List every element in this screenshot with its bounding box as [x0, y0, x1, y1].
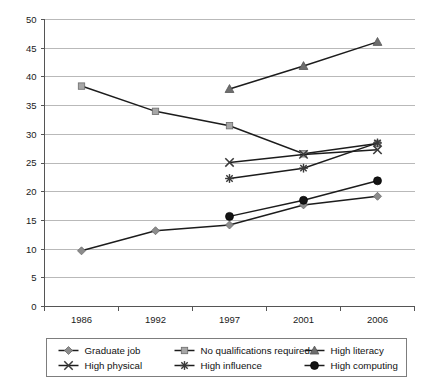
legend-label: High literacy	[331, 345, 384, 356]
data-point-marker-circle	[374, 177, 382, 185]
data-point-marker-diamond	[226, 221, 234, 229]
line-chart: 05101520253035404550 1986199219972001200…	[0, 0, 423, 384]
data-point-marker-diamond	[65, 347, 73, 355]
y-tick-marks	[41, 20, 45, 307]
y-tick-label: 10	[26, 244, 37, 255]
data-point-marker-diamond	[374, 192, 382, 200]
data-point-marker-asterisk	[373, 139, 382, 148]
data-point-marker-square	[78, 83, 84, 89]
data-point-marker-square	[181, 347, 187, 353]
legend-item-high-literacy[interactable]: High literacy	[305, 345, 384, 356]
legend-item-no-qualifications-required[interactable]: No qualifications required	[175, 345, 310, 356]
data-point-marker-square	[152, 108, 158, 114]
y-tick-label: 50	[26, 14, 37, 25]
legend-label: High physical	[85, 360, 143, 371]
series-layer	[78, 37, 382, 254]
x-tick-label: 2006	[367, 314, 388, 325]
x-tick-label: 1992	[145, 314, 166, 325]
chart-legend: Graduate jobNo qualifications requiredHi…	[47, 339, 407, 377]
x-tick-marks	[45, 307, 415, 311]
y-tick-label: 5	[31, 272, 36, 283]
legend-item-high-influence[interactable]: High influence	[175, 360, 262, 371]
data-point-marker-asterisk	[225, 174, 234, 183]
x-tick-label: 1997	[219, 314, 240, 325]
data-point-marker-circle	[311, 362, 319, 370]
chart-svg: 05101520253035404550 1986199219972001200…	[0, 0, 423, 384]
data-point-marker-square	[226, 122, 232, 128]
y-tick-label: 15	[26, 215, 37, 226]
legend-label: Graduate job	[85, 345, 141, 356]
y-tick-label: 30	[26, 129, 37, 140]
data-point-marker-diamond	[152, 227, 160, 235]
legend-label: No qualifications required	[201, 345, 310, 356]
legend-item-graduate-job[interactable]: Graduate job	[59, 345, 141, 356]
y-tick-label: 40	[26, 71, 37, 82]
x-axis-tick-labels: 19861992199720012006	[71, 314, 388, 325]
y-tick-label: 0	[31, 301, 36, 312]
y-tick-label: 25	[26, 157, 37, 168]
y-axis-tick-labels: 05101520253035404550	[26, 14, 37, 312]
legend-label: High influence	[201, 360, 262, 371]
data-point-marker-circle	[300, 196, 308, 204]
data-point-marker-circle	[226, 212, 234, 220]
data-point-marker-asterisk	[180, 361, 189, 370]
legend-label: High computing	[331, 360, 398, 371]
y-tick-label: 35	[26, 100, 37, 111]
series-high-literacy	[225, 37, 382, 92]
data-point-marker-triangle	[373, 37, 382, 45]
data-point-marker-asterisk	[299, 164, 308, 173]
y-tick-label: 45	[26, 43, 37, 54]
series-graduate-job	[78, 192, 382, 255]
series-no-qualifications-required	[78, 83, 380, 157]
x-tick-label: 2001	[293, 314, 314, 325]
y-tick-label: 20	[26, 186, 37, 197]
data-point-marker-diamond	[78, 247, 86, 255]
x-tick-label: 1986	[71, 314, 92, 325]
legend-item-high-physical[interactable]: High physical	[59, 360, 143, 371]
legend-item-high-computing[interactable]: High computing	[305, 360, 398, 371]
series-line	[82, 86, 378, 154]
